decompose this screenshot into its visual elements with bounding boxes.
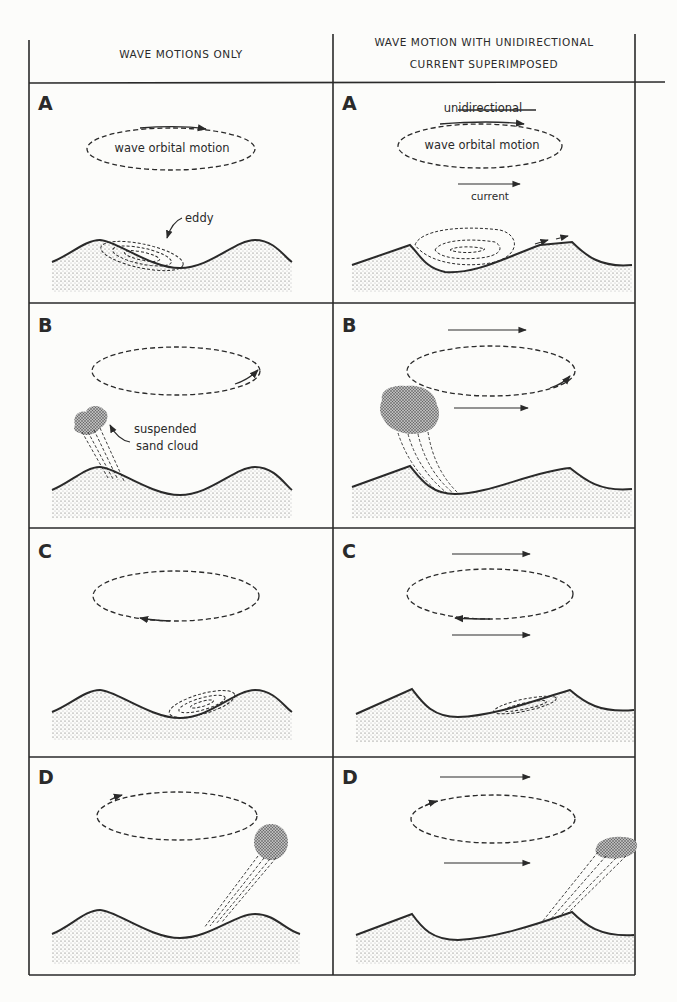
suspended-label: suspended [134,422,197,436]
panel-letter-c-right: C [342,540,356,562]
current-label: current [455,190,525,202]
panel-letter-d-left: D [38,766,54,788]
orbit-label-a-right: wave orbital motion [410,138,554,152]
panel-d-right [356,777,637,964]
panel-letter-b-right: B [342,314,356,336]
column-header-right-line2: CURRENT SUPERIMPOSED [333,58,635,70]
panel-letter-a-right: A [342,92,357,114]
unidirectional-label: unidirectional [428,101,538,115]
sand-cloud-label: sand cloud [136,439,198,453]
panel-letter-c-left: C [38,540,52,562]
column-header-left: WAVE MOTIONS ONLY [29,48,333,60]
panel-letter-b-left: B [38,314,52,336]
column-header-right-line1: WAVE MOTION WITH UNIDIRECTIONAL [333,36,635,48]
panel-b-right [352,330,632,518]
figure-sheet: WAVE MOTIONS ONLY WAVE MOTION WITH UNIDI… [0,0,677,1002]
panel-c-right [356,554,634,742]
panel-letter-a-left: A [38,92,53,114]
panel-d-left [52,792,300,964]
panel-c-left [52,571,292,740]
panel-letter-d-right: D [342,766,358,788]
orbit-label-a-left: wave orbital motion [100,141,244,155]
eddy-label: eddy [185,211,213,225]
